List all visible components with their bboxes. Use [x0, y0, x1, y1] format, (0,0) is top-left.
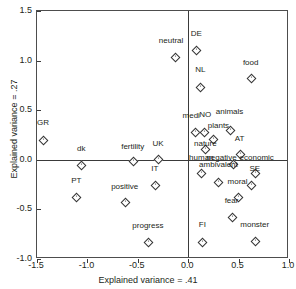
data-point-label: neutral	[159, 36, 183, 45]
data-point-label: positive	[111, 182, 138, 191]
data-point-label: IT	[151, 164, 158, 173]
data-point-marker	[246, 74, 256, 84]
data-point-label: DE	[191, 29, 202, 38]
x-tick-label: 0.5	[231, 260, 244, 270]
data-point-label: medi	[183, 111, 200, 120]
data-point-marker	[250, 237, 260, 247]
plot-area: GRdkPTfertilityUKITpositiveprogressneutr…	[36, 10, 288, 258]
x-tick-label: -1.0	[79, 260, 95, 270]
data-point-marker	[150, 180, 160, 190]
data-point-marker	[192, 45, 202, 55]
x-tick-label: 0.0	[181, 260, 194, 270]
data-point-marker	[246, 180, 256, 190]
data-point-marker	[196, 83, 206, 93]
data-point-label: animals	[216, 107, 244, 116]
data-point-marker	[72, 192, 82, 202]
x-tick-label: -0.5	[129, 260, 145, 270]
y-tick-mark	[37, 11, 41, 12]
data-point-marker	[39, 136, 49, 146]
data-point-label: AT	[235, 134, 245, 143]
y-tick-mark	[37, 160, 41, 161]
data-point-label: monster	[240, 220, 269, 229]
y-tick-mark	[37, 110, 41, 111]
data-point-marker	[128, 156, 138, 166]
data-point-label: SE	[249, 164, 260, 173]
data-point-label: ambivalent	[199, 160, 238, 169]
data-point-marker	[77, 160, 87, 170]
y-tick-mark	[37, 61, 41, 62]
data-point-label: fear	[225, 196, 239, 205]
data-point-label: NL	[195, 65, 205, 74]
data-point-marker	[197, 168, 207, 178]
x-tick-label: 1.0	[282, 260, 295, 270]
data-point-label: NO	[199, 110, 211, 119]
vertical-zero-axis	[188, 11, 189, 257]
data-point-label: food	[243, 58, 259, 67]
data-point-marker	[143, 238, 153, 248]
data-point-label: moral	[228, 177, 248, 186]
data-point-marker	[227, 213, 237, 223]
y-tick-mark	[37, 209, 41, 210]
scatter-plot-figure: GRdkPTfertilityUKITpositiveprogressneutr…	[0, 0, 296, 289]
data-point-label: PT	[71, 176, 81, 185]
data-point-marker	[214, 177, 224, 187]
y-axis-title: Explained variance = .27	[9, 5, 19, 253]
x-axis-title: Explained variance = .41	[0, 275, 296, 285]
data-point-label: FI	[199, 220, 206, 229]
data-point-marker	[171, 52, 181, 62]
data-point-label: economic	[240, 153, 274, 162]
data-point-label: GR	[37, 118, 49, 127]
data-point-marker	[198, 238, 208, 248]
data-point-label: dk	[77, 144, 85, 153]
data-point-marker	[120, 198, 130, 208]
data-point-label: progress	[132, 221, 163, 230]
data-point-label: UK	[152, 139, 163, 148]
data-point-label: nature	[194, 139, 217, 148]
data-point-label: fertility	[121, 142, 144, 151]
